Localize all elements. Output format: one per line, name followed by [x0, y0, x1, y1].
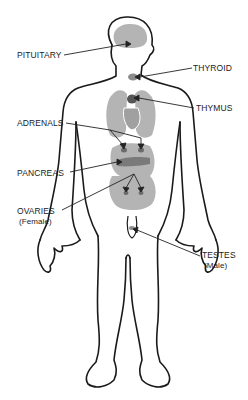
label-ovaries-note: (Female): [19, 217, 52, 227]
label-pituitary: PITUITARY: [17, 50, 62, 60]
label-testes-note: (Male): [204, 261, 227, 271]
label-thymus: THYMUS: [196, 103, 233, 113]
label-pancreas: PANCREAS: [17, 168, 64, 178]
body-figure: [0, 0, 248, 400]
label-adrenals: ADRENALS: [17, 118, 64, 128]
label-thyroid: THYROID: [193, 63, 232, 73]
endocrine-diagram: PITUITARY THYROID THYMUS ADRENALS PANCRE…: [0, 0, 248, 400]
label-testes: TESTES: [202, 250, 236, 260]
intestines: [109, 176, 155, 210]
label-ovaries: OVARIES: [17, 206, 55, 216]
